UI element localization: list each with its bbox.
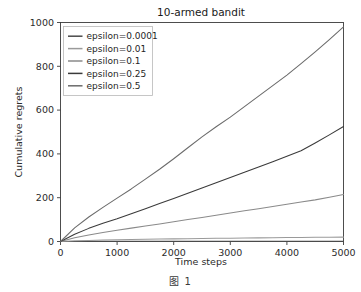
series-line-epsilon-0-25 bbox=[61, 127, 344, 242]
chart-title: 10-armed bandit bbox=[157, 6, 245, 18]
series-line-epsilon-0-1 bbox=[61, 194, 344, 241]
x-axis-title-group: Time steps bbox=[174, 256, 227, 267]
y-tick-label: 200 bbox=[36, 192, 54, 203]
legend-label-0[interactable]: epsilon=0.0001 bbox=[87, 31, 158, 41]
y-tick-label: 400 bbox=[36, 148, 54, 159]
legend-label-3[interactable]: epsilon=0.25 bbox=[87, 69, 147, 79]
x-tick-label: 0 bbox=[57, 247, 63, 258]
legend-label-2[interactable]: epsilon=0.1 bbox=[87, 56, 141, 66]
y-axis-title-group: Cumulative regrets bbox=[13, 86, 24, 177]
x-tick-label: 4000 bbox=[275, 247, 299, 258]
x-axis-title: Time steps bbox=[174, 256, 227, 267]
x-tick-label: 1000 bbox=[105, 247, 129, 258]
figure-caption: 图 1 bbox=[0, 268, 361, 292]
chart-title-group: 10-armed bandit bbox=[157, 6, 245, 18]
legend[interactable]: epsilon=0.0001epsilon=0.01epsilon=0.1eps… bbox=[64, 27, 158, 96]
cumulative-regret-line-chart: 10-armed bandit 010002000300040005000 02… bbox=[0, 0, 361, 268]
y-axis-ticks: 02004006008001000 bbox=[30, 17, 61, 247]
y-tick-label: 800 bbox=[36, 61, 54, 72]
figure-container: 10-armed bandit 010002000300040005000 02… bbox=[0, 0, 361, 268]
y-tick-label: 600 bbox=[36, 104, 54, 115]
legend-label-1[interactable]: epsilon=0.01 bbox=[87, 44, 147, 54]
y-axis-title: Cumulative regrets bbox=[13, 86, 24, 177]
y-tick-label: 1000 bbox=[30, 17, 54, 28]
x-tick-label: 5000 bbox=[331, 247, 355, 258]
legend-label-4[interactable]: epsilon=0.5 bbox=[87, 81, 141, 91]
y-tick-label: 0 bbox=[48, 236, 54, 247]
